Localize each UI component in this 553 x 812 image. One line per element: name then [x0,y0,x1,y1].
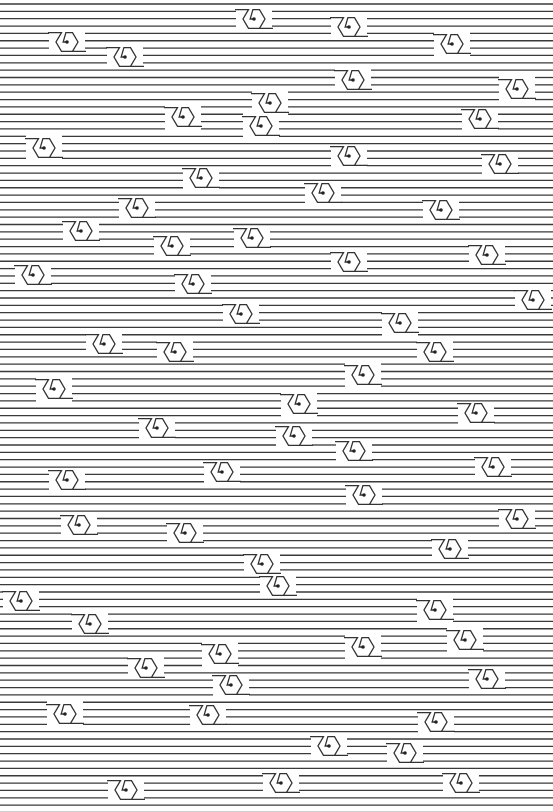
spiral-knot-icon [457,404,495,423]
spiral-knot-icon [212,676,250,695]
spiral-knot-icon [127,659,165,678]
spiral-knot-icon [107,781,145,800]
spiral-knot-icon [48,471,86,490]
spiral-knot-icon [330,147,368,166]
spiral-knot-icon [416,343,454,362]
spiral-knot-icon [60,516,98,535]
spiral-knot-icon [138,419,176,438]
spiral-knot-icon [46,705,84,724]
spiral-knot-icon [118,199,156,218]
spiral-knot-icon [446,631,484,650]
spiral-knot-icon [468,670,506,689]
spiral-knot-icon [164,108,202,127]
spiral-knot-icon [62,222,100,241]
spiral-knot-icon [35,380,73,399]
spiral-knot-icon [304,184,342,203]
spiral-knot-icon [262,774,300,793]
spiral-knot-icon [386,744,424,763]
spiral-knot-icon [461,110,499,129]
spiral-knot-icon [182,169,220,188]
spiral-knot-icon [189,706,227,725]
spiral-knot-icon [330,253,368,272]
spiral-knot-icon [310,737,348,756]
spiral-knot-icon [417,713,455,732]
spiral-knot-icon [259,577,297,596]
spiral-knot-icon [166,524,204,543]
spiral-knot-icon [222,305,260,324]
spiral-knot-icon [474,458,512,477]
spiral-knot-icon [280,395,318,414]
hexagon-spiral-knots [2,10,552,800]
spiral-knot-icon [345,486,383,505]
spiral-knot-icon [275,427,313,446]
spiral-knot-icon [85,335,123,354]
generative-line-artwork [0,0,553,812]
spiral-knot-icon [334,71,372,90]
spiral-knot-icon [442,774,480,793]
spiral-knot-icon [14,266,52,285]
spiral-knot-icon [381,314,419,333]
spiral-knot-icon [106,48,144,67]
spiral-knot-icon [344,366,382,385]
spiral-knot-icon [153,237,191,256]
spiral-knot-icon [330,18,368,37]
spiral-knot-icon [235,10,273,29]
spiral-knot-icon [468,246,506,265]
spiral-knot-icon [416,601,454,620]
spiral-knot-icon [2,592,40,611]
spiral-knot-icon [203,463,241,482]
spiral-knot-icon [498,510,536,529]
spiral-knot-icon [344,638,382,657]
spiral-knot-icon [242,117,280,136]
spiral-knot-icon [498,80,536,99]
spiral-knot-icon [71,615,109,634]
spiral-knot-icon [174,275,212,294]
spiral-knot-icon [514,291,552,310]
horizontal-lines [0,4,553,812]
spiral-knot-icon [156,343,194,362]
spiral-knot-icon [433,35,471,54]
spiral-knot-icon [243,555,281,574]
spiral-knot-icon [251,94,289,113]
spiral-knot-icon [233,229,271,248]
spiral-knot-icon [422,201,460,220]
spiral-knot-icon [25,139,63,158]
spiral-knot-icon [201,645,239,664]
spiral-knot-icon [431,540,469,559]
spiral-knot-icon [48,33,86,52]
spiral-knot-icon [335,442,373,461]
spiral-knot-icon [481,155,519,174]
